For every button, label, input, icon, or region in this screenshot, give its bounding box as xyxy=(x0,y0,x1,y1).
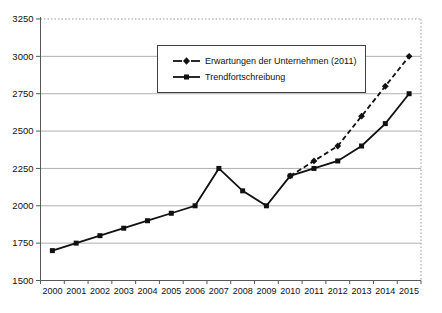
x-tick-label: 2007 xyxy=(209,286,229,296)
series-line-solid xyxy=(52,94,409,251)
legend-label: Trendfortschreibung xyxy=(205,72,285,82)
y-tick-label: 1500 xyxy=(12,275,33,286)
x-tick-label: 2015 xyxy=(399,286,419,296)
x-tick-label: 2001 xyxy=(66,286,86,296)
y-tick-label: 2250 xyxy=(12,163,33,174)
legend-item-erwartungen: Erwartungen der Unternehmen (2011) xyxy=(173,56,365,66)
x-tick-label: 2000 xyxy=(42,286,62,296)
x-tick-label: 2011 xyxy=(304,286,323,296)
x-tick-label: 2004 xyxy=(138,286,158,296)
data-point-marker xyxy=(169,211,174,216)
data-point-marker xyxy=(97,233,102,238)
x-tick-label: 2009 xyxy=(256,286,276,296)
x-tick-label: 2013 xyxy=(352,286,372,296)
data-point-marker xyxy=(359,144,364,149)
data-point-marker xyxy=(121,226,126,231)
y-tick-label: 3250 xyxy=(12,13,33,24)
y-tick-label: 1750 xyxy=(12,237,33,248)
x-tick-label: 2002 xyxy=(90,286,110,296)
legend-item-trend: Trendfortschreibung xyxy=(173,72,365,82)
data-point-marker xyxy=(407,91,412,96)
y-tick-label: 2000 xyxy=(12,200,33,211)
legend: Erwartungen der Unternehmen (2011) Trend… xyxy=(157,45,366,93)
data-point-marker xyxy=(216,166,221,171)
data-point-marker xyxy=(74,241,79,246)
y-tick-label: 3000 xyxy=(12,51,33,62)
solid-line-square-icon xyxy=(173,72,200,82)
data-point-marker xyxy=(383,121,388,126)
legend-label: Erwartungen der Unternehmen (2011) xyxy=(205,56,356,66)
data-point-marker xyxy=(145,218,150,223)
x-tick-label: 2005 xyxy=(161,286,181,296)
data-point-marker xyxy=(264,203,269,208)
line-chart: 1500175020002250250027503000325020002001… xyxy=(0,0,442,313)
data-point-marker xyxy=(335,158,340,163)
dashed-line-diamond-icon xyxy=(173,56,200,66)
x-tick-label: 2012 xyxy=(328,286,348,296)
y-tick-label: 2500 xyxy=(12,125,33,136)
data-point-marker xyxy=(288,173,293,178)
data-point-marker xyxy=(406,53,413,60)
data-point-marker xyxy=(193,203,198,208)
x-tick-label: 2010 xyxy=(280,286,300,296)
data-point-marker xyxy=(50,248,55,253)
x-tick-label: 2006 xyxy=(185,286,205,296)
y-tick-label: 2750 xyxy=(12,88,33,99)
x-tick-label: 2008 xyxy=(233,286,253,296)
x-tick-label: 2014 xyxy=(375,286,395,296)
data-point-marker xyxy=(311,166,316,171)
data-point-marker xyxy=(240,188,245,193)
x-tick-label: 2003 xyxy=(114,286,134,296)
